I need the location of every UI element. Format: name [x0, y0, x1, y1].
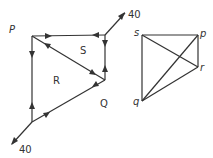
force-label-top: 40: [128, 9, 141, 20]
node-label-q: q: [133, 96, 139, 107]
force-diagram: P Q R S 40 40 s p r q: [0, 0, 213, 158]
arrow-head-icon: [45, 33, 52, 39]
region-label-R: R: [53, 75, 60, 86]
arrow-head-icon: [29, 102, 35, 109]
arrow-head-icon: [29, 51, 35, 58]
node-label-Q: Q: [100, 98, 108, 109]
arrow-head-icon: [102, 40, 108, 47]
arrow-head-icon: [92, 32, 99, 38]
node-label-p: p: [199, 28, 206, 39]
arrow-head-icon: [89, 69, 96, 75]
node-label-r: r: [200, 62, 205, 73]
force-label-bottom: 40: [19, 144, 32, 155]
node-label-P: P: [9, 24, 16, 35]
space-diagram: P Q R S 40 40: [9, 9, 141, 155]
edge-q-p: [142, 35, 198, 101]
arrow-head-icon: [44, 43, 51, 49]
edge-s-r: [142, 35, 198, 67]
force-polygon: s p r q: [133, 27, 206, 107]
edge-q-r: [142, 67, 198, 101]
arrow-head-icon: [102, 65, 108, 72]
region-label-S: S: [80, 45, 86, 56]
node-label-s: s: [134, 27, 139, 38]
